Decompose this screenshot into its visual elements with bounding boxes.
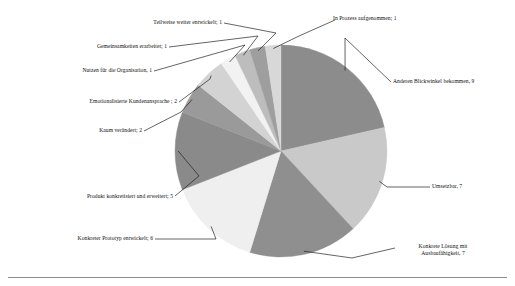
pie-label-kaum-veraendert: Kaum verändert; 2 bbox=[0, 127, 142, 134]
pie-label-line-2: Ausbaufähigkeit, 7 bbox=[421, 250, 464, 256]
pie-label-produkt-konkretisiert-und-erweitert: Produkt konkretisiert und erweitert; 5 bbox=[0, 193, 173, 200]
pie-label-nutzen-fuer-die-organisation: Nutzen für die Organisation, 1 bbox=[0, 67, 152, 74]
pie-label-anderen-blickwinkel-bekommen: Anderen Blickwinkel bekommen, 9 bbox=[393, 78, 474, 85]
bottom-divider-rule bbox=[8, 277, 507, 278]
pie-label-teilweise-weiter-entwickelt: Teilweise weiter entwickelt; 1 bbox=[0, 19, 222, 26]
pie-label-gemeinsamkeiten-erarbeitet: Gemeinsamkeiten erarbeitet; 1 bbox=[0, 43, 167, 50]
pie-label-in-prozess-aufgenommen: In Prozess aufgenommen; 1 bbox=[333, 15, 397, 22]
leader-line bbox=[273, 20, 335, 49]
pie-label-umsetzbar: Umsetzbar, 7 bbox=[432, 183, 462, 190]
pie-label-konkrete-loesung-mit-ausbaufaehigkeit: Konkrete Lösung mit Ausbaufähigkeit, 7 bbox=[397, 243, 489, 256]
leader-line bbox=[155, 226, 216, 239]
pie-chart-figure: In Prozess aufgenommen; 1 Anderen Blickw… bbox=[0, 0, 515, 286]
leader-line bbox=[379, 181, 430, 187]
pie-label-line-1: Konkrete Lösung mit bbox=[419, 243, 468, 249]
pie-label-emotionalisierte-kundenansprache: Emotionalisierte Kundenansprache ; 2 bbox=[0, 98, 177, 105]
pie-label-konkreter-prototyp-entwickelt: Konkreter Prototyp entwickelt; 6 bbox=[0, 235, 153, 242]
pie-slice-group bbox=[175, 45, 387, 257]
